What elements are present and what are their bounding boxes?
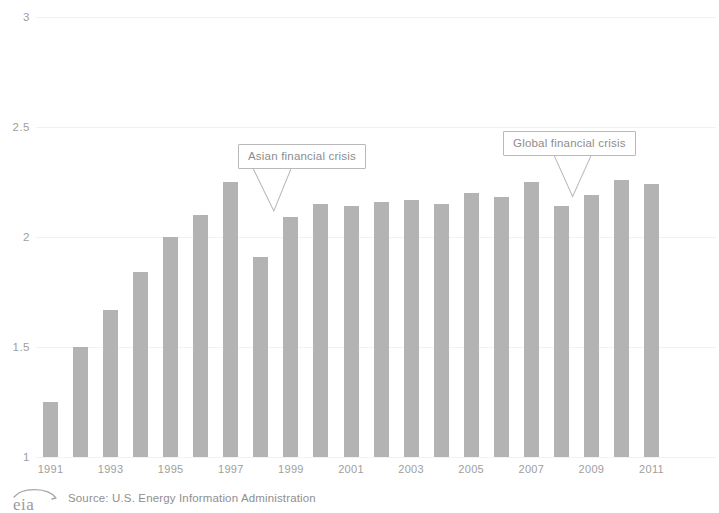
x-axis-tick-1995: 1995 bbox=[158, 463, 184, 475]
y-axis-tick-1: 1 bbox=[0, 451, 30, 463]
bar-2004 bbox=[434, 204, 449, 457]
x-axis-tick-1999: 1999 bbox=[278, 463, 304, 475]
x-axis-tick-2003: 2003 bbox=[398, 463, 424, 475]
x-axis-tick-2005: 2005 bbox=[458, 463, 484, 475]
annotation-global-financial-crisis: Global financial crisis bbox=[503, 131, 636, 156]
y-axis-tick-2: 2 bbox=[0, 231, 30, 243]
bar-2009 bbox=[584, 195, 599, 457]
bar-2008 bbox=[554, 206, 569, 457]
bar-2011 bbox=[644, 184, 659, 457]
y-axis-tick-1-5: 1.5 bbox=[0, 341, 30, 353]
footer: eia Source: U.S. Energy Information Admi… bbox=[0, 484, 719, 513]
bar-2003 bbox=[404, 200, 419, 457]
y-axis-tick-3: 3 bbox=[0, 11, 30, 23]
bar-2007 bbox=[524, 182, 539, 457]
bar-2005 bbox=[464, 193, 479, 457]
x-axis-tick-1991: 1991 bbox=[38, 463, 64, 475]
x-axis-tick-2007: 2007 bbox=[518, 463, 544, 475]
x-axis-tick-1993: 1993 bbox=[98, 463, 124, 475]
bar-1998 bbox=[253, 257, 268, 457]
svg-text:eia: eia bbox=[13, 495, 34, 512]
bar-1996 bbox=[193, 215, 208, 457]
bar-1995 bbox=[163, 237, 178, 457]
chart-container: 3 2.5 2 1.5 1 19911993199519971999200120… bbox=[0, 0, 719, 513]
annotation-global-financial-crisis-label: Global financial crisis bbox=[503, 131, 636, 156]
bar-2001 bbox=[344, 206, 359, 457]
annotation-asian-financial-crisis-label: Asian financial crisis bbox=[238, 144, 366, 169]
bar-1992 bbox=[73, 347, 88, 457]
x-axis-tick-2009: 2009 bbox=[579, 463, 605, 475]
x-axis-tick-2011: 2011 bbox=[639, 463, 664, 475]
bar-1994 bbox=[133, 272, 148, 457]
x-axis-tick-1997: 1997 bbox=[218, 463, 244, 475]
bar-2010 bbox=[614, 180, 629, 457]
bar-1999 bbox=[283, 217, 298, 457]
x-axis-labels: 1991199319951997199920012003200520072009… bbox=[40, 463, 719, 479]
bar-1993 bbox=[103, 310, 118, 457]
bar-1997 bbox=[223, 182, 238, 457]
eia-logo-icon: eia bbox=[8, 486, 62, 512]
y-axis-tick-2-5: 2.5 bbox=[0, 121, 30, 133]
bar-1991 bbox=[43, 402, 58, 457]
x-axis-tick-2001: 2001 bbox=[338, 463, 364, 475]
source-attribution: Source: U.S. Energy Information Administ… bbox=[68, 492, 316, 504]
bar-2002 bbox=[374, 202, 389, 457]
annotation-asian-financial-crisis: Asian financial crisis bbox=[238, 144, 366, 169]
bars-layer bbox=[40, 0, 719, 513]
bar-2006 bbox=[494, 197, 509, 457]
bar-2000 bbox=[313, 204, 328, 457]
